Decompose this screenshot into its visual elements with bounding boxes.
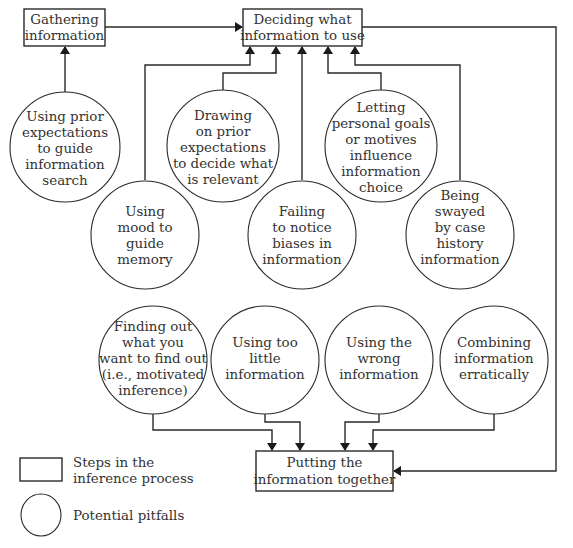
pitfall-text: to notice [272,220,332,235]
pitfall-text: by case [435,220,486,235]
legend-box-label-2: inference process [73,471,194,486]
pitfall-text: memory [117,252,173,267]
step-putting: Putting the information together [254,451,396,491]
legend: Steps in the inference process Potential… [20,455,194,536]
step-deciding-line-2: information to use [240,28,365,43]
pitfall-text: Using the [346,335,412,350]
legend-circle-icon [21,494,61,536]
legend-box-label-1: Steps in the [73,455,154,470]
step-putting-line-1: Putting the [286,455,362,470]
pitfall-text: expectations [22,125,108,140]
step-gathering: Gathering information [24,9,105,46]
pitfall-text: Finding out [114,319,193,334]
pitfall-text: what you [122,335,184,350]
pitfall-too-little: Using too little information [211,306,319,414]
pitfall-text: Using too [232,335,297,350]
pitfall-text: Letting [356,100,405,115]
pitfall-text: information [262,252,342,267]
pitfall-text: information [25,157,105,172]
step-deciding-line-1: Deciding what [253,12,352,27]
step-deciding: Deciding what information to use [240,9,365,46]
arrow-erratic [373,414,494,450]
pitfall-text: erratically [459,367,529,382]
pitfall-text: history [436,236,484,251]
arrow-too-little [265,414,300,450]
pitfall-text: on prior [196,124,251,139]
pitfall-text: mood to [117,220,172,235]
arrow-wrong-info [345,414,379,450]
pitfall-text: (i.e., motivated [102,367,205,382]
pitfall-text: Failing [279,204,326,219]
pitfall-text: Combining [457,335,531,350]
pitfall-prior-search: Using prior expectations to guide inform… [10,92,120,202]
pitfall-text: search [42,173,88,188]
inference-diagram: Gathering information Deciding what info… [0,0,573,548]
pitfall-text: information [454,351,534,366]
pitfall-text: Being [440,188,480,203]
pitfall-erratic: Combining information erratically [440,306,548,414]
pitfall-text: inference) [118,383,187,398]
pitfall-text: expectations [180,140,266,155]
pitfall-text: biases in [272,236,332,251]
pitfall-text: choice [359,180,403,195]
pitfall-text: personal goals [332,116,431,131]
step-putting-line-2: information together [254,472,396,487]
pitfall-text: want to find out [99,351,207,366]
pitfall-letting-goals: Letting personal goals or motives influe… [325,90,437,202]
pitfall-text: information [225,367,305,382]
pitfall-text: information [339,367,419,382]
pitfall-drawing-prior: Drawing on prior expectations to decide … [167,90,279,202]
pitfall-text: or motives [345,132,417,147]
pitfall-motivated-inference: Finding out what you want to find out (i… [99,306,208,414]
pitfall-text: is relevant [187,172,259,187]
pitfall-text: Drawing [194,108,252,123]
legend-box-icon [20,458,62,481]
pitfall-text: Using prior [26,109,104,124]
pitfall-wrong-info: Using the wrong information [325,306,433,414]
pitfall-text: information [341,164,421,179]
step-gathering-line-1: Gathering [30,12,99,27]
pitfall-text: little [249,351,281,366]
step-gathering-line-2: information [25,28,105,43]
pitfall-text: Using [125,204,165,219]
pitfall-mood-memory: Using mood to guide memory [91,181,199,289]
arrow-motivated-inference [153,414,272,450]
pitfall-text: information [420,252,500,267]
pitfall-failing-biases: Failing to notice biases in information [248,181,356,289]
pitfall-text: influence [350,148,413,163]
pitfall-text: wrong [357,351,401,366]
pitfall-text: swayed [435,204,486,219]
pitfall-text: to decide what [173,156,274,171]
legend-circle-label: Potential pitfalls [73,508,184,523]
pitfall-text: guide [126,236,164,251]
pitfall-text: to guide [37,141,93,156]
pitfall-case-history: Being swayed by case history information [406,181,514,289]
